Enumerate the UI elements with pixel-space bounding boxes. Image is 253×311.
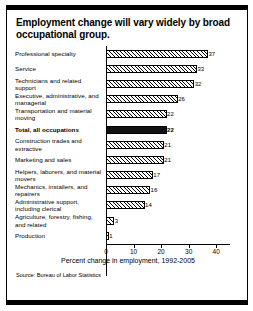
bar-row: Production1	[7, 228, 248, 243]
bar: 37	[106, 50, 208, 58]
bar: 26	[106, 95, 178, 103]
bar-row: Executive, administrative, and manageria…	[7, 92, 248, 107]
bar-row: Technicians and related support32	[7, 76, 248, 91]
category-label: Service	[15, 61, 103, 76]
bar-row: Service33	[7, 61, 248, 76]
bar: 21	[106, 156, 164, 164]
bar: 3	[106, 217, 114, 225]
bar-value-label: 21	[164, 157, 171, 163]
bar: 14	[106, 201, 145, 209]
x-tick-label: 30	[185, 248, 192, 255]
bar-value-label: 32	[195, 81, 202, 87]
category-label: Mechanics, installers, and repairers	[15, 183, 103, 198]
bar-track: 21	[106, 137, 248, 152]
category-label: Technicians and related support	[15, 76, 103, 91]
bar: 33	[106, 65, 197, 73]
x-tick-label: 10	[130, 248, 137, 255]
top-rule	[7, 6, 248, 10]
bar: 17	[106, 171, 153, 179]
bar-track: 32	[106, 76, 248, 91]
bar-track: 1	[106, 228, 248, 243]
category-label: Executive, administrative, and manageria…	[15, 92, 103, 107]
x-axis-tick-labels: 010203040	[106, 248, 230, 257]
chart-frame: Employment change will vary widely by br…	[6, 5, 248, 305]
bar-row: Mechanics, installers, and repairers16	[7, 183, 248, 198]
bar-row: Professional specialty37	[7, 46, 248, 61]
bar-track: 22	[106, 107, 248, 122]
bar-value-label: 16	[151, 187, 158, 193]
bar-row: Construction trades and extractive21	[7, 137, 248, 152]
bar-value-label: 3	[115, 218, 118, 224]
bottom-rule	[7, 300, 248, 304]
bar: 21	[106, 141, 164, 149]
category-label: Production	[15, 228, 103, 243]
bar-track: 21	[106, 152, 248, 167]
bar-row: Transportation and material moving22	[7, 107, 248, 122]
bar-value-label: 22	[167, 127, 174, 133]
bar-row: Administrative support, including cleric…	[7, 198, 248, 213]
bar-value-label: 33	[197, 66, 204, 72]
x-tick-label: 40	[213, 248, 220, 255]
bar-track: 17	[106, 168, 248, 183]
category-label: Construction trades and extractive	[15, 137, 103, 152]
bar-track: 26	[106, 92, 248, 107]
category-label: Administrative support, including cleric…	[15, 198, 103, 213]
bar-row: Total, all occupations22	[7, 122, 248, 137]
bar-value-label: 21	[164, 142, 171, 148]
bar-row: Agriculture, forestry, fishing, and rela…	[7, 213, 248, 228]
bar: 22	[106, 126, 167, 134]
bar-value-label: 22	[167, 111, 174, 117]
bar-row: Helpers, laborers, and material movers17	[7, 168, 248, 183]
bar: 16	[106, 186, 150, 194]
bar-track: 33	[106, 61, 248, 76]
x-tick-label: 0	[104, 248, 108, 255]
bar-value-label: 1	[109, 233, 112, 239]
chart-title: Employment change will vary widely by br…	[16, 17, 240, 41]
bar-track: 22	[106, 122, 248, 137]
bar: 22	[106, 110, 167, 118]
x-axis-label: Percent change in employment, 1992-2005	[7, 257, 248, 264]
bar-track: 16	[106, 183, 248, 198]
category-label: Helpers, laborers, and material movers	[15, 168, 103, 183]
bar-rows: Professional specialty37Service33Technic…	[7, 46, 248, 243]
source-note: Source: Bureau of Labor Statistics	[16, 272, 101, 278]
bar-track: 37	[106, 46, 248, 61]
bar-value-label: 17	[153, 172, 160, 178]
category-label: Total, all occupations	[15, 122, 103, 137]
chart-figure: Employment change will vary widely by br…	[0, 0, 253, 311]
bar-track: 3	[106, 213, 248, 228]
bar: 1	[106, 232, 109, 240]
category-label: Transportation and material moving	[15, 107, 103, 122]
bar-value-label: 26	[178, 96, 185, 102]
bar-track: 14	[106, 198, 248, 213]
category-label: Marketing and sales	[15, 152, 103, 167]
bar-value-label: 14	[145, 202, 152, 208]
bar-value-label: 37	[208, 51, 215, 57]
bar-row: Marketing and sales21	[7, 152, 248, 167]
plot-area: Professional specialty37Service33Technic…	[7, 46, 248, 276]
category-label: Agriculture, forestry, fishing, and rela…	[15, 213, 103, 228]
x-tick-label: 20	[157, 248, 164, 255]
bar: 32	[106, 80, 194, 88]
category-label: Professional specialty	[15, 46, 103, 61]
